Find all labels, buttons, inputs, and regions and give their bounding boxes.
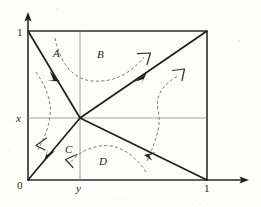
region-label-b: B — [97, 48, 104, 60]
region-label-d: D — [98, 155, 107, 167]
trajectory-region-d — [70, 146, 146, 172]
tick-label-y-one: 1 — [17, 26, 23, 38]
trajectory-region-right — [147, 76, 178, 161]
axes-group — [24, 12, 249, 184]
gridline-label-x: x — [15, 112, 21, 124]
separatrix-anti-diagonal-upper — [28, 31, 80, 118]
label-group: 1 0 1 x y A B C D — [15, 26, 210, 194]
separatrix-main-diagonal-arrowhead-lower — [44, 149, 55, 162]
tick-label-origin: 0 — [17, 179, 23, 191]
trajectory-region-b-arrowhead — [138, 53, 151, 65]
figure-canvas: 1 0 1 x y A B C D — [0, 0, 261, 207]
tick-label-x-one: 1 — [204, 182, 210, 194]
region-label-c: C — [65, 143, 73, 155]
phase-diagram: 1 0 1 x y A B C D — [0, 0, 261, 207]
region-label-a: A — [52, 47, 60, 59]
gridline-label-y: y — [75, 182, 81, 194]
scan-speckle — [9, 8, 240, 204]
separatrix-anti-diagonal-lower — [80, 118, 207, 180]
trajectory-region-left — [36, 72, 50, 150]
trajectory-region-right-arrowhead — [173, 69, 185, 81]
separatrix-main-diagonal-upper — [80, 31, 207, 118]
